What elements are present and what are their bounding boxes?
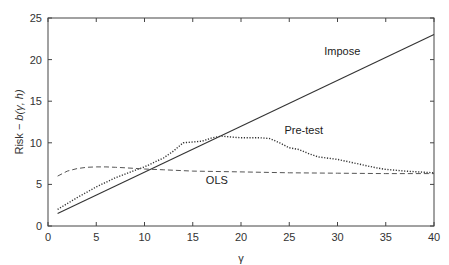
series-impose — [58, 35, 434, 214]
y-tick-label: 15 — [30, 95, 42, 107]
plot-frame — [48, 18, 434, 226]
series-layer — [58, 35, 434, 214]
y-tick-label: 25 — [30, 12, 42, 24]
x-tick-label: 35 — [380, 231, 392, 243]
y-tick-label: 5 — [36, 178, 42, 190]
series-pre-test — [58, 136, 434, 209]
x-tick-label: 30 — [331, 231, 343, 243]
x-tick-label: 40 — [428, 231, 440, 243]
plot-border — [48, 18, 434, 226]
x-tick-label: 20 — [235, 231, 247, 243]
x-tick-label: 10 — [138, 231, 150, 243]
series-ols — [58, 167, 434, 176]
y-tick-label: 10 — [30, 137, 42, 149]
series-labels: ImposePre-testOLS — [206, 45, 360, 186]
x-tick-label: 15 — [187, 231, 199, 243]
y-tick-label: 0 — [36, 220, 42, 232]
x-axis-label: γ — [238, 252, 244, 264]
y-tick-label: 20 — [30, 54, 42, 66]
line-chart: 0510152025303540 0510152025 ImposePre-te… — [0, 0, 449, 265]
label-pre-test: Pre-test — [284, 124, 323, 136]
y-axis-label: Risk − b(γ, h) — [13, 89, 25, 154]
label-impose: Impose — [324, 45, 360, 57]
y-axis-ticks: 0510152025 — [30, 12, 434, 232]
x-tick-label: 25 — [283, 231, 295, 243]
x-tick-label: 0 — [45, 231, 51, 243]
label-ols: OLS — [206, 174, 228, 186]
x-tick-label: 5 — [93, 231, 99, 243]
x-axis-ticks: 0510152025303540 — [45, 18, 440, 243]
